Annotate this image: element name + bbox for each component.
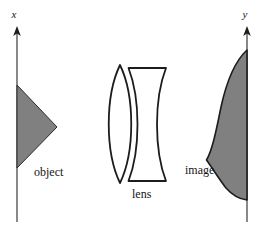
image-label: image	[185, 163, 214, 177]
biconvex-element	[109, 65, 132, 183]
y-axis-label: y	[242, 8, 248, 20]
object-label: object	[34, 165, 64, 179]
figure-canvas: x y object lens image	[0, 0, 261, 231]
x-axis-label: x	[11, 8, 17, 20]
object-triangle	[17, 85, 57, 168]
biconcave-element	[129, 68, 167, 181]
image-blob	[207, 50, 248, 200]
object-shape	[17, 85, 57, 168]
lens-label: lens	[132, 187, 152, 201]
optics-figure: x y object lens image	[0, 0, 261, 231]
lens-shape	[109, 65, 166, 183]
image-shape	[207, 50, 248, 200]
